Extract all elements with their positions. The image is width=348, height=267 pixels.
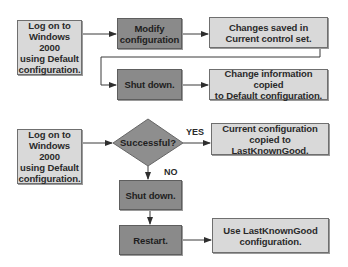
restart-box: Restart. — [119, 225, 182, 255]
shut-down-box-top: Shut down. — [117, 69, 182, 100]
logon-default-config-box-top: Log on to Windows 2000 using Default con… — [17, 20, 82, 75]
shut-down-label-top: Shut down. — [124, 79, 174, 90]
logon-default-config-label-top: Log on to Windows 2000 using Default con… — [19, 20, 81, 75]
yes-label: YES — [186, 127, 204, 137]
change-copied-label: Change information copied to Default con… — [212, 68, 325, 101]
current-config-copied-box: Current configuration copied to LastKnow… — [211, 123, 329, 155]
use-lastknowngood-label: Use LastKnownGood configuration. — [223, 225, 317, 247]
modify-configuration-box: Modify configuration — [117, 18, 182, 49]
modify-configuration-label: Modify configuration — [120, 23, 179, 45]
flowchart-canvas: Log on to Windows 2000 using Default con… — [0, 0, 348, 267]
change-copied-box: Change information copied to Default con… — [209, 69, 328, 100]
use-lastknowngood-box: Use LastKnownGood configuration. — [212, 218, 329, 253]
shut-down-label-bottom: Shut down. — [125, 190, 175, 201]
no-label: NO — [164, 167, 178, 177]
logon-default-config-label-bottom: Log on to Windows 2000 using Default con… — [19, 129, 81, 184]
logon-default-config-box-bottom: Log on to Windows 2000 using Default con… — [17, 129, 82, 184]
restart-label: Restart. — [133, 235, 168, 246]
changes-saved-label: Changes saved in Current control set. — [225, 22, 311, 44]
current-config-copied-label: Current configuration copied to LastKnow… — [214, 123, 326, 156]
shut-down-box-bottom: Shut down. — [119, 180, 182, 210]
changes-saved-box: Changes saved in Current control set. — [209, 17, 328, 48]
decision-label: Successful? — [113, 137, 183, 148]
